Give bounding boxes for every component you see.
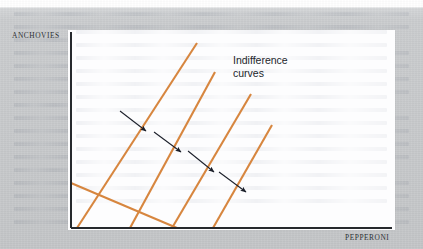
indifference-curve-1 — [71, 183, 177, 228]
indifference-curve-3 — [130, 72, 215, 228]
indifference-curves-annotation: Indifference curves — [233, 54, 288, 79]
axes-group — [71, 32, 392, 228]
y-axis-label: ANCHOVIES — [12, 31, 60, 40]
utility-direction-arrows-group — [120, 111, 246, 192]
utility-arrow-4 — [219, 172, 246, 192]
indifference-curve-5 — [213, 125, 272, 228]
figure-root: ANCHOVIES PEPPERONI Indifference curves — [0, 0, 423, 249]
x-axis-label: PEPPERONI — [345, 233, 389, 242]
utility-arrow-1 — [120, 111, 146, 131]
indifference-curve-4 — [172, 94, 251, 228]
indifference-curve-2 — [77, 43, 197, 228]
plot-graphics — [0, 0, 423, 249]
